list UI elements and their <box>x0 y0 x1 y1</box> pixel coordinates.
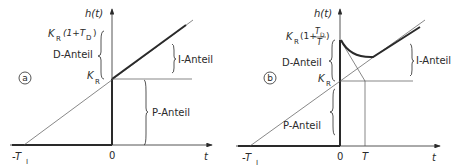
svg-text:K: K <box>87 70 95 81</box>
svg-text:-T: -T <box>12 151 22 162</box>
svg-text:): ) <box>326 31 330 41</box>
svg-text:K: K <box>318 73 326 84</box>
svg-text:R: R <box>294 38 299 46</box>
svg-text:R: R <box>56 35 61 43</box>
svg-text:R: R <box>326 80 331 88</box>
T-tick-label: T <box>362 151 369 162</box>
p-anteil-label: P-Anteil <box>283 120 321 131</box>
svg-text:): ) <box>93 28 97 38</box>
kr-label: K R <box>318 73 331 88</box>
d-anteil-brace <box>98 31 104 79</box>
svg-text:R: R <box>95 78 100 86</box>
pid-step-response-diagram: a h(t) t 0 -T I K R K R (1+T D ) D-Antei… <box>0 0 457 168</box>
panel-b-marker: b <box>267 73 273 83</box>
svg-text:I: I <box>256 159 258 167</box>
svg-text:T: T <box>317 38 323 47</box>
t-axis-label: t <box>204 151 209 162</box>
neg-ti-tick-label: -T I <box>242 152 258 167</box>
d-anteil-brace <box>329 40 335 81</box>
svg-text:K: K <box>286 31 294 42</box>
p-anteil-brace <box>330 89 335 135</box>
panel-b: b h(t) t 0 T -T I K R K R (1+ T D T ) D-… <box>236 8 451 167</box>
zero-tick-label: 0 <box>109 150 115 161</box>
panel-a: a h(t) t 0 -T I K R K R (1+T D ) D-Antei… <box>10 8 213 166</box>
i-anteil-brace <box>410 44 414 76</box>
kr-1-plus-td-over-t-label: K R (1+ T D T ) <box>286 27 330 47</box>
ti-extension-line <box>250 20 425 146</box>
svg-text:I: I <box>26 158 28 166</box>
zero-tick-label: 0 <box>337 151 343 162</box>
i-anteil-label: I-Anteil <box>178 54 213 65</box>
svg-text:-T: -T <box>242 152 252 163</box>
i-anteil-brace <box>172 44 176 73</box>
panel-a-marker: a <box>22 73 28 83</box>
i-anteil-label: I-Anteil <box>416 55 451 66</box>
h-axis-label: h(t) <box>85 8 103 19</box>
d-anteil-label: D-Anteil <box>282 57 322 68</box>
neg-ti-tick-label: -T I <box>12 151 28 166</box>
d-anteil-label: D-Anteil <box>53 49 93 60</box>
kr-1-plus-td-label: K R (1+T D ) <box>48 28 97 43</box>
kr-label: K R <box>87 70 100 86</box>
svg-text:D: D <box>86 34 91 42</box>
p-anteil-label: P-Anteil <box>152 107 190 118</box>
ramp-response <box>112 25 186 79</box>
h-axis-label: h(t) <box>314 8 332 19</box>
svg-text:K: K <box>48 28 56 39</box>
svg-text:(1+T: (1+T <box>63 28 87 38</box>
p-anteil-brace <box>144 80 148 145</box>
t-axis-label: t <box>432 152 437 163</box>
pid-response-curve <box>341 27 420 57</box>
